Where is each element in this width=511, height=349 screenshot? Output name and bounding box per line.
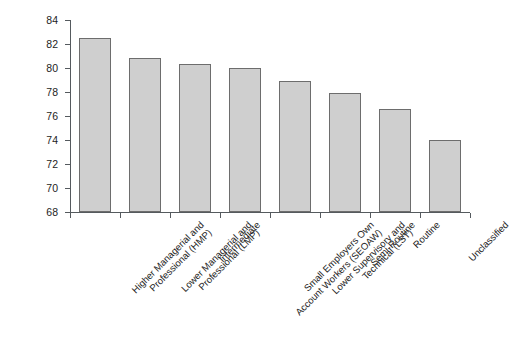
x-tick-mark <box>320 213 321 218</box>
y-tick-label: 80 <box>16 63 58 73</box>
y-tick-label-wrap: 84 <box>0 15 70 25</box>
x-tick-mark <box>370 213 371 218</box>
bar <box>229 68 261 212</box>
y-tick-label: 84 <box>16 15 58 25</box>
y-tick-label-wrap: 82 <box>0 39 70 49</box>
x-tick-mark <box>70 213 71 218</box>
x-category-label: Unclassified <box>466 219 511 264</box>
y-tick-label: 72 <box>16 159 58 169</box>
x-tick-mark <box>170 213 171 218</box>
x-tick-mark <box>220 213 221 218</box>
y-tick-label-wrap: 76 <box>0 111 70 121</box>
bar <box>129 58 161 212</box>
y-tick-label: 82 <box>16 39 58 49</box>
y-tick-label: 74 <box>16 135 58 145</box>
y-tick-label: 68 <box>16 207 58 217</box>
bar <box>279 81 311 212</box>
x-tick-mark <box>120 213 121 218</box>
x-tick-mark <box>270 213 271 218</box>
bar <box>79 38 111 212</box>
y-tick-label-wrap: 74 <box>0 135 70 145</box>
bar <box>429 140 461 212</box>
y-tick-label-wrap: 70 <box>0 183 70 193</box>
y-tick-label: 70 <box>16 183 58 193</box>
y-tick-label-wrap: 68 <box>0 207 70 217</box>
y-tick-label: 78 <box>16 87 58 97</box>
x-tick-mark <box>420 213 421 218</box>
y-tick-label-wrap: 80 <box>0 63 70 73</box>
bar <box>179 64 211 212</box>
bar <box>379 109 411 212</box>
bar <box>329 93 361 212</box>
x-category-label: Routine <box>411 219 442 250</box>
y-axis-line <box>70 20 71 213</box>
y-tick-label-wrap: 78 <box>0 87 70 97</box>
y-tick-label: 76 <box>16 111 58 121</box>
y-tick-label-wrap: 72 <box>0 159 70 169</box>
x-tick-mark <box>470 213 471 218</box>
